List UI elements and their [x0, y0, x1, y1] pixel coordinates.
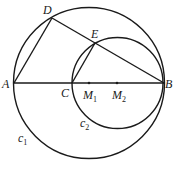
segment-db	[52, 18, 164, 83]
label-c: C	[61, 86, 70, 100]
segment-ad	[14, 18, 52, 83]
segment-ce	[72, 43, 95, 83]
label-m2: M2	[111, 88, 126, 104]
label-e: E	[90, 27, 99, 41]
point-m2-dot	[116, 82, 119, 85]
label-a: A	[1, 77, 10, 91]
label-c1: c1	[18, 131, 27, 147]
label-d: D	[42, 3, 52, 17]
geometry-diagram: A B C D E M1 M2 c1 c2	[0, 0, 177, 173]
point-m1-dot	[88, 82, 91, 85]
label-b: B	[165, 77, 173, 91]
label-m1: M1	[82, 88, 97, 104]
